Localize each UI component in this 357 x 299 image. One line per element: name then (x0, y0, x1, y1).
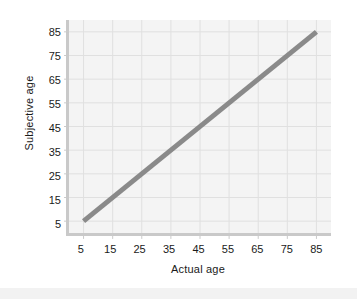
x-axis-tick-label: 65 (242, 243, 272, 255)
y-axis-tick-label: 75 (35, 50, 61, 62)
plot-area (66, 20, 331, 236)
x-axis-tick-label: 35 (154, 243, 184, 255)
x-axis-tick-label: 55 (213, 243, 243, 255)
x-axis-tick-label: 5 (66, 243, 96, 255)
x-axis-title: Actual age (65, 263, 331, 275)
data-series-layer (69, 20, 331, 233)
x-axis-tick-label: 75 (272, 243, 302, 255)
x-axis-tick-labels: 51525354555657585 (66, 243, 331, 259)
x-axis-tick-label: 25 (125, 243, 155, 255)
chart-figure: Subjective age 51525354555657585 5152535… (0, 0, 357, 299)
y-axis-tick-label: 45 (35, 122, 61, 134)
x-axis-tick-label: 85 (301, 243, 331, 255)
y-axis-tick-labels: 51525354555657585 (31, 20, 61, 236)
y-axis-tick-label: 85 (35, 26, 61, 38)
figure-bottom-band (0, 288, 357, 299)
y-axis-tick-label: 35 (35, 146, 61, 158)
x-axis-tick-label: 45 (184, 243, 214, 255)
data-line (84, 32, 317, 221)
y-axis-tick-label: 15 (35, 194, 61, 206)
y-axis-tick-label: 55 (35, 98, 61, 110)
y-axis-tick-label: 5 (35, 218, 61, 230)
x-axis-tick-label: 15 (95, 243, 125, 255)
y-axis-tick-label: 25 (35, 170, 61, 182)
y-axis-tick-label: 65 (35, 74, 61, 86)
